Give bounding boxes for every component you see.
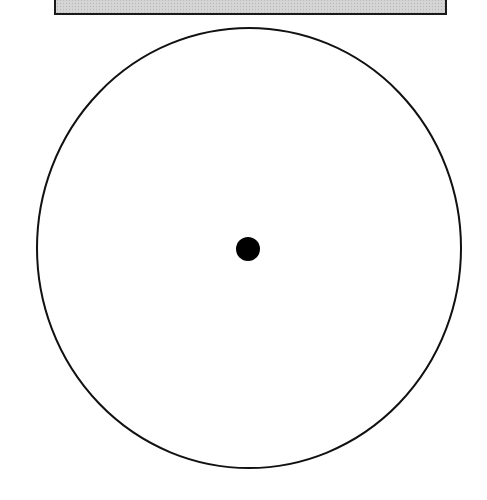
center-dot [236, 237, 260, 261]
diagram-canvas [0, 0, 487, 500]
